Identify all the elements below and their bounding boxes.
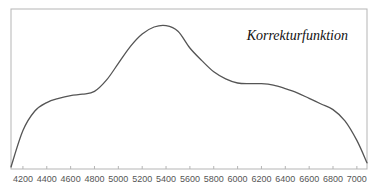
x-tick-label: 5200 bbox=[132, 174, 152, 184]
x-tick-label: 5800 bbox=[204, 174, 224, 184]
x-tick-label: 4200 bbox=[13, 174, 33, 184]
x-axis-tick-labels: 4200440046004800500052005400560058006000… bbox=[13, 174, 367, 184]
x-tick-label: 5400 bbox=[156, 174, 176, 184]
x-tick-label: 4800 bbox=[84, 174, 104, 184]
x-tick-label: 5600 bbox=[180, 174, 200, 184]
x-tick-label: 6400 bbox=[275, 174, 295, 184]
x-tick-label: 4400 bbox=[37, 174, 57, 184]
x-tick-label: 6200 bbox=[251, 174, 271, 184]
x-tick-label: 7000 bbox=[347, 174, 367, 184]
x-tick-label: 6800 bbox=[323, 174, 343, 184]
chart-title: Korrekturfunktion bbox=[246, 28, 348, 43]
x-tick-label: 4600 bbox=[61, 174, 81, 184]
correction-function-chart: 4200440046004800500052005400560058006000… bbox=[0, 0, 373, 193]
x-tick-label: 6000 bbox=[228, 174, 248, 184]
x-tick-label: 5000 bbox=[108, 174, 128, 184]
x-tick-label: 6600 bbox=[299, 174, 319, 184]
